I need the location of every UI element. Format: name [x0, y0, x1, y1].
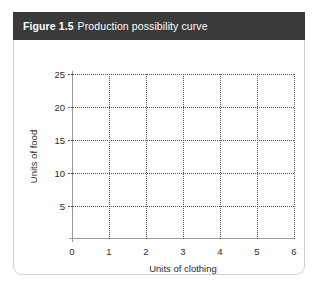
- gridline-vertical: [294, 74, 295, 239]
- gridline-vertical: [146, 74, 147, 239]
- x-axis-tick-label: 0: [69, 246, 74, 257]
- figure-caption-text: Production possibility curve: [74, 20, 208, 32]
- y-axis-tick-mark: [68, 140, 72, 141]
- figure-caption-number: Figure 1.5: [23, 20, 74, 32]
- chart: Units of food 510152025 0123456 Units of…: [14, 41, 304, 274]
- gridline-vertical: [220, 74, 221, 239]
- x-axis-tick-label: 5: [254, 246, 259, 257]
- x-axis-line: [69, 238, 295, 239]
- y-axis-line: [72, 71, 73, 242]
- y-axis-title: Units of food: [26, 74, 40, 239]
- figure-caption: Figure 1.5Production possibility curve: [13, 20, 208, 32]
- y-axis-tick-label: 5: [60, 201, 65, 212]
- y-axis-tick-mark: [68, 206, 72, 207]
- gridline-vertical: [183, 74, 184, 239]
- y-axis-tick-mark: [68, 74, 72, 75]
- figure-card: Figure 1.5Production possibility curve U…: [13, 13, 305, 275]
- gridline-vertical: [257, 74, 258, 239]
- y-axis-tick-mark: [68, 173, 72, 174]
- x-axis-tick-label: 4: [217, 246, 222, 257]
- x-axis-tick-label: 3: [180, 246, 185, 257]
- x-axis-title: Units of clothing: [72, 263, 294, 274]
- gridline-vertical: [109, 74, 110, 239]
- y-axis-tick-mark: [68, 107, 72, 108]
- figure-caption-bar: Figure 1.5Production possibility curve: [13, 12, 305, 40]
- plot-area: 510152025 0123456: [72, 74, 294, 239]
- y-axis-tick-label: 15: [54, 135, 65, 146]
- y-axis-tick-label: 10: [54, 168, 65, 179]
- x-axis-tick-label: 6: [291, 246, 296, 257]
- x-axis-tick-label: 1: [106, 246, 111, 257]
- y-axis-tick-label: 20: [54, 102, 65, 113]
- y-axis-tick-label: 25: [54, 69, 65, 80]
- x-axis-tick-label: 2: [143, 246, 148, 257]
